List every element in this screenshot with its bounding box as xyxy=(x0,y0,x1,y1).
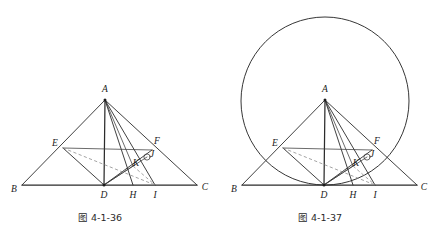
vertex-label-A: A xyxy=(101,84,108,94)
segment-AK xyxy=(105,100,133,166)
dashed-segment-EI xyxy=(283,148,375,185)
figure-caption: 图 4-1-37 xyxy=(298,212,342,223)
vertex-label-J: J xyxy=(150,149,155,159)
segment-AD xyxy=(104,100,105,185)
geometry-figure-sheet: ABCDEFHIJK图 4-1-36ABCDEFHIJK图 4-1-37 xyxy=(0,0,429,239)
figure-left: ABCDEFHIJK图 4-1-36 xyxy=(11,84,209,222)
vertex-label-A: A xyxy=(321,84,328,94)
segment-DK xyxy=(104,166,133,185)
segment-EF xyxy=(283,148,372,150)
segment-EF xyxy=(63,148,152,150)
vertex-dot-D xyxy=(103,184,106,187)
vertex-label-K: K xyxy=(132,158,140,168)
vertex-label-K: K xyxy=(352,158,360,168)
segment-AI xyxy=(325,100,375,185)
segment-DE xyxy=(63,148,104,185)
dashed-segment-KI xyxy=(133,166,155,185)
vertex-label-J: J xyxy=(370,149,375,159)
vertex-label-F: F xyxy=(373,136,380,146)
vertex-label-E: E xyxy=(51,138,58,148)
vertex-dot-D xyxy=(323,184,326,187)
vertex-label-D: D xyxy=(100,190,108,200)
vertex-label-I: I xyxy=(372,190,377,200)
vertex-label-E: E xyxy=(271,138,278,148)
segment-BA xyxy=(242,100,325,185)
dashed-segment-EI xyxy=(63,148,155,185)
vertex-label-H: H xyxy=(129,190,138,200)
vertex-label-B: B xyxy=(11,184,17,194)
geometry-canvas: ABCDEFHIJK图 4-1-36ABCDEFHIJK图 4-1-37 xyxy=(0,0,429,239)
vertex-label-B: B xyxy=(231,184,237,194)
segment-BA xyxy=(22,100,105,185)
vertex-dot-A xyxy=(324,99,327,102)
vertex-label-C: C xyxy=(202,182,209,192)
vertex-label-I: I xyxy=(152,190,157,200)
vertex-label-H: H xyxy=(349,190,358,200)
vertex-dot-A xyxy=(104,99,107,102)
segment-AK xyxy=(325,100,353,166)
vertex-label-D: D xyxy=(320,190,328,200)
figure-caption: 图 4-1-36 xyxy=(78,212,122,223)
segment-DK xyxy=(324,166,353,185)
segment-AI xyxy=(105,100,155,185)
vertex-label-F: F xyxy=(153,136,160,146)
figure-right: ABCDEFHIJK图 4-1-37 xyxy=(231,17,428,223)
segment-AD xyxy=(324,100,325,185)
segment-DE xyxy=(283,148,324,185)
vertex-label-C: C xyxy=(421,182,428,192)
